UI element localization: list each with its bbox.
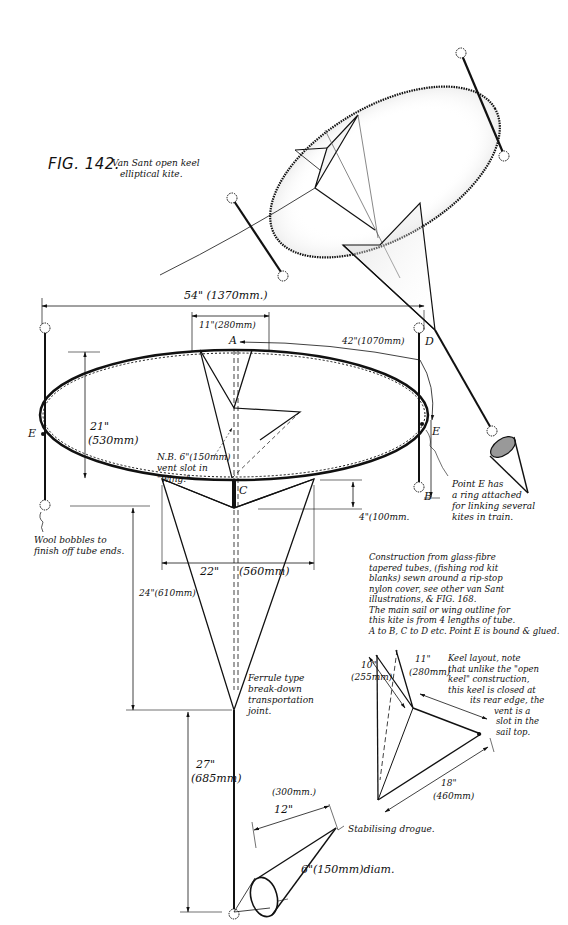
note-line: this kite is from 4 lengths of tube. <box>369 615 560 626</box>
drogue-diameter: 6"(150mm)diam. <box>301 863 395 876</box>
caption-line: elliptical kite. <box>112 169 200 180</box>
keel-side-in: 10" <box>361 660 377 671</box>
construction-note: Construction from glass-fibre tapered tu… <box>369 552 560 636</box>
ferrule-joint-note: Ferrule type break-down transportation j… <box>248 673 314 717</box>
note-line: vent slot in <box>157 463 231 474</box>
point-a-label: A <box>229 335 237 347</box>
note-line: illustrations, & FIG. 168. <box>369 594 560 605</box>
note-line: keel" construction, <box>448 674 544 685</box>
span-dimension: 54" (1370mm.) <box>184 289 268 302</box>
note-line: nylon cover, see other van Sant <box>369 584 560 595</box>
point-d-label: D <box>425 336 434 348</box>
point-e-note: Point E has a ring attached for linking … <box>452 479 535 523</box>
keel-layout-note: Keel layout, note that unlike the "open … <box>448 653 544 737</box>
note-line: slot in the <box>448 716 544 727</box>
keel-width-in-dimension: 22" <box>200 565 219 578</box>
note-line: kites in train. <box>452 512 535 523</box>
keel-base-in: 18" <box>441 778 457 789</box>
note-line: this keel is closed at <box>448 685 544 696</box>
bobbles-note: Wool bobbles to finish off tube ends. <box>34 535 124 557</box>
note-line: N.B. 6"(150mm) <box>157 452 231 463</box>
note-line: blanks) sewn around a rip-stop <box>369 573 560 584</box>
note-line: Ferrule type <box>248 673 314 684</box>
note-line: break-down <box>248 684 314 695</box>
note-line: finish off tube ends. <box>34 546 124 557</box>
point-e-right-label: E <box>432 426 440 438</box>
note-line: Construction from glass-fibre <box>369 552 560 563</box>
keel-side-mm: (255mm) <box>351 672 392 683</box>
drogue-note: Stabilising drogue. <box>348 824 435 835</box>
keel-top-in: 11" <box>415 654 431 665</box>
note-line: for linking several <box>452 501 535 512</box>
note-line: that unlike the "open <box>448 664 544 675</box>
note-line: tapered tubes, (fishing rod kit <box>369 563 560 574</box>
top-width-dimension: 11"(280mm) <box>199 320 256 331</box>
figure-number: FIG. 142. <box>48 155 120 173</box>
wool-bobble-icon <box>414 323 424 333</box>
note-line: Point E has <box>452 479 535 490</box>
tail-in-dimension: 27" <box>196 758 215 771</box>
note-line: A to B, C to D etc. Point E is bound & g… <box>369 626 560 637</box>
point-e-left-label: E <box>28 428 36 440</box>
height-mm-dimension: (530mm) <box>88 434 138 447</box>
note-line: joint. <box>248 706 314 717</box>
note-line: The main sail or wing outline for <box>369 605 560 616</box>
vent-slot-note: N.B. 6"(150mm) vent slot in "wing." <box>157 452 231 485</box>
note-line: Wool bobbles to <box>34 535 124 546</box>
note-line: transportation <box>248 695 314 706</box>
point-c-label: C <box>239 485 247 497</box>
point-b-label: B <box>424 491 432 503</box>
note-line: a ring attached <box>452 490 535 501</box>
drogue-length-mm: (300mm.) <box>272 787 316 798</box>
keel-base-mm: (460mm) <box>433 791 474 802</box>
figure-caption: Van Sant open keel elliptical kite. <box>112 158 200 180</box>
drogue-length-in: 12" <box>274 803 293 816</box>
caption-line: Van Sant open keel <box>112 158 200 169</box>
wool-bobble-icon <box>40 323 50 333</box>
keel-width-mm-dimension: (560mm) <box>239 565 289 578</box>
keel-drop-dimension: 4"(100mm. <box>359 512 409 523</box>
note-line: Keel layout, note <box>448 653 544 664</box>
height-in-dimension: 21" <box>90 420 109 433</box>
tail-mm-dimension: (685mm) <box>191 772 241 785</box>
wool-bobble-icon <box>414 482 424 492</box>
note-line: sail top. <box>448 727 544 738</box>
keel-top-mm: (280mm) <box>409 667 450 678</box>
note-line: "wing." <box>157 474 231 485</box>
wool-bobble-icon <box>40 500 50 510</box>
note-line: its rear edge, the <box>448 695 544 706</box>
note-line: vent is a <box>448 706 544 717</box>
keel-height-dimension: 24"(610mm) <box>139 588 196 599</box>
drogue-cone-icon <box>234 804 344 920</box>
spar-length-dimension: 42"(1070mm) <box>342 336 405 347</box>
